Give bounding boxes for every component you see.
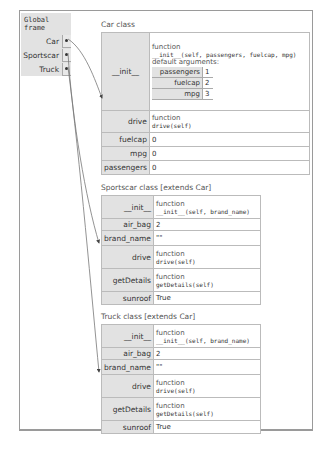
- function-label: function: [152, 114, 307, 122]
- attr-key: passengers: [102, 161, 150, 175]
- attr-key: drive: [102, 111, 150, 133]
- attr-value: True: [153, 421, 260, 434]
- function-signature: __init__(self, passengers, fuelcap, mpg): [152, 51, 307, 58]
- attr-row-fuelcap: fuelcap 0: [102, 133, 310, 147]
- attr-value: 0: [149, 133, 309, 147]
- default-arg-value: 3: [202, 89, 213, 100]
- attr-row-init: __init__ function __init__(self, passeng…: [102, 33, 310, 111]
- frame-var-car: Car: [21, 34, 71, 48]
- default-arg-key: mpg: [152, 89, 203, 100]
- global-frame-title: Global frame: [21, 13, 71, 34]
- class-title: Sportscar class [extends Car]: [101, 183, 261, 193]
- sportscar-class-table: __init__ function __init__(self, brand_n…: [101, 195, 261, 305]
- function-label: function: [156, 200, 258, 208]
- attr-value: function getDetails(self): [153, 398, 260, 421]
- attr-key: getDetails: [102, 269, 154, 292]
- attr-value: 2: [153, 348, 260, 360]
- function-label: function: [156, 250, 258, 258]
- attr-row-getdetails: getDetails function getDetails(self): [102, 398, 261, 421]
- attr-key: __init__: [102, 33, 150, 111]
- function-label: function: [156, 273, 258, 281]
- default-arg-key: fuelcap: [152, 78, 203, 89]
- attr-row-brand-name: brand_name "": [102, 231, 261, 246]
- truck-class-table: __init__ function __init__(self, brand_n…: [101, 324, 261, 434]
- attr-value: function __init__(self, brand_name): [153, 325, 260, 348]
- attr-row-drive: drive function drive(self): [102, 246, 261, 269]
- attr-value: True: [153, 292, 260, 305]
- default-arg-value: 2: [202, 78, 213, 89]
- function-signature: getDetails(self): [156, 410, 258, 417]
- pointer-cell: [62, 35, 71, 48]
- attr-value: function __init__(self, brand_name): [153, 196, 260, 219]
- attr-key: mpg: [102, 147, 150, 161]
- frame-var-sportscar: Sportscar: [21, 48, 71, 62]
- attr-row-drive: drive function drive(self): [102, 375, 261, 398]
- attr-row-getdetails: getDetails function getDetails(self): [102, 269, 261, 292]
- function-signature: drive(self): [152, 122, 307, 129]
- attr-key: __init__: [102, 325, 154, 348]
- attr-key: air_bag: [102, 219, 154, 231]
- car-class-object: Car class __init__ function __init__(sel…: [101, 20, 310, 175]
- attr-value: 2: [153, 219, 260, 231]
- function-signature: getDetails(self): [156, 281, 258, 288]
- attr-value: "": [153, 231, 260, 246]
- default-arg-row: fuelcap2: [152, 78, 213, 89]
- attr-row-mpg: mpg 0: [102, 147, 310, 161]
- defaults-label: default arguments:: [152, 58, 307, 66]
- default-arg-row: passengers1: [152, 67, 213, 78]
- attr-key: sunroof: [102, 292, 154, 305]
- default-arg-key: passengers: [152, 67, 203, 78]
- var-name: Truck: [21, 65, 62, 74]
- attr-row-sunroof: sunroof True: [102, 421, 261, 434]
- global-frame: Global frame Car Sportscar Truck: [21, 13, 71, 76]
- sportscar-class-object: Sportscar class [extends Car] __init__ f…: [101, 183, 261, 305]
- attr-value: 0: [149, 147, 309, 161]
- function-label: function: [156, 379, 258, 387]
- function-label: function: [152, 43, 307, 51]
- var-name: Sportscar: [21, 51, 62, 60]
- default-arg-value: 1: [202, 67, 213, 78]
- function-signature: __init__(self, brand_name): [156, 208, 258, 215]
- attr-row-init: __init__ function __init__(self, brand_n…: [102, 196, 261, 219]
- pointer-cell: [62, 49, 71, 62]
- attr-value: function drive(self): [149, 111, 309, 133]
- attr-key: drive: [102, 375, 154, 398]
- function-signature: drive(self): [156, 258, 258, 265]
- pointer-dot-icon: [65, 39, 68, 42]
- attr-value: function drive(self): [153, 246, 260, 269]
- function-signature: drive(self): [156, 387, 258, 394]
- attr-key: __init__: [102, 196, 154, 219]
- attr-row-air-bag: air_bag 2: [102, 348, 261, 360]
- function-label: function: [156, 402, 258, 410]
- function-label: function: [156, 329, 258, 337]
- function-signature: __init__(self, brand_name): [156, 337, 258, 344]
- truck-class-object: Truck class [extends Car] __init__ funct…: [101, 312, 261, 434]
- car-class-table: __init__ function __init__(self, passeng…: [101, 32, 310, 175]
- attr-key: air_bag: [102, 348, 154, 360]
- attr-key: sunroof: [102, 421, 154, 434]
- var-name: Car: [21, 37, 62, 46]
- attr-row-brand-name: brand_name "": [102, 360, 261, 375]
- attr-row-air-bag: air_bag 2: [102, 219, 261, 231]
- attr-key: brand_name: [102, 231, 154, 246]
- class-title: Truck class [extends Car]: [101, 312, 261, 322]
- attr-value: function getDetails(self): [153, 269, 260, 292]
- attr-row-passengers: passengers 0: [102, 161, 310, 175]
- class-title: Car class: [101, 20, 310, 30]
- attr-key: brand_name: [102, 360, 154, 375]
- attr-value: function __init__(self, passengers, fuel…: [149, 33, 309, 111]
- attr-row-drive: drive function drive(self): [102, 111, 310, 133]
- attr-key: fuelcap: [102, 133, 150, 147]
- attr-row-sunroof: sunroof True: [102, 292, 261, 305]
- default-arg-row: mpg3: [152, 89, 213, 100]
- frame-var-truck: Truck: [21, 62, 71, 76]
- attr-key: getDetails: [102, 398, 154, 421]
- attr-row-init: __init__ function __init__(self, brand_n…: [102, 325, 261, 348]
- attr-value: 0: [149, 161, 309, 175]
- attr-value: "": [153, 360, 260, 375]
- default-args-table: passengers1 fuelcap2 mpg3: [152, 67, 213, 100]
- attr-value: function drive(self): [153, 375, 260, 398]
- pointer-dot-icon: [65, 67, 68, 70]
- attr-key: drive: [102, 246, 154, 269]
- pointer-cell: [62, 63, 71, 76]
